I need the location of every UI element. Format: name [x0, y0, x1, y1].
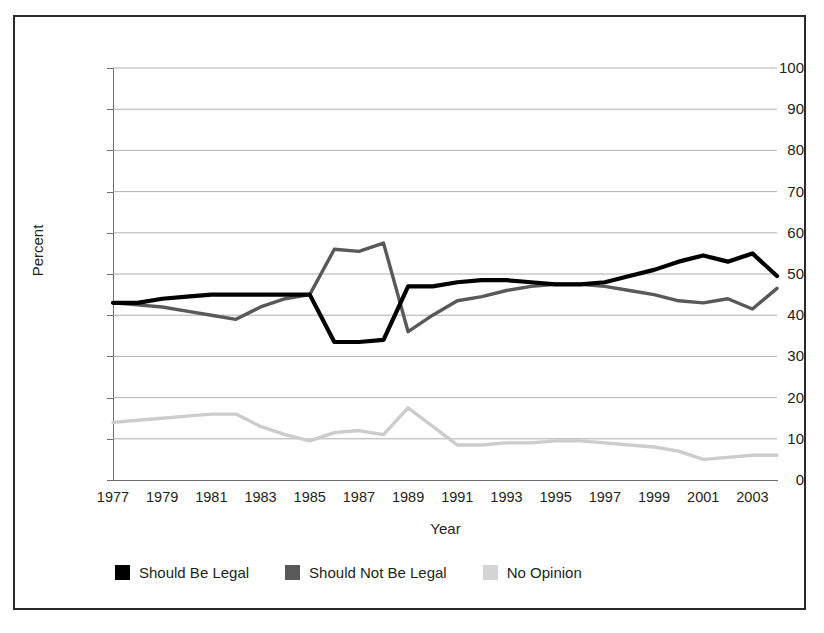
x-tick-label: 1985 [294, 490, 326, 505]
x-tick-label: 1993 [490, 490, 522, 505]
x-tick-label: 1979 [146, 490, 178, 505]
legend-swatch-icon [115, 565, 130, 580]
series-lines [113, 68, 777, 480]
legend-label: No Opinion [507, 565, 582, 580]
series-line [113, 243, 777, 332]
x-tick-label: 1983 [244, 490, 276, 505]
y-tick-mark [107, 480, 114, 481]
series-line [113, 253, 777, 342]
x-tick-label: 2001 [687, 490, 719, 505]
chart-legend: Should Be LegalShould Not Be LegalNo Opi… [115, 565, 582, 580]
x-tick-label: 1997 [589, 490, 621, 505]
x-tick-label: 1989 [392, 490, 424, 505]
x-axis-title: Year [113, 520, 778, 537]
x-tick-label: 1987 [343, 490, 375, 505]
x-tick-label: 2003 [736, 490, 768, 505]
series-line [113, 408, 777, 460]
legend-swatch-icon [483, 565, 498, 580]
x-tick-label: 1995 [540, 490, 572, 505]
legend-item[interactable]: Should Not Be Legal [285, 565, 447, 580]
legend-label: Should Be Legal [139, 565, 249, 580]
chart-figure: Percent 1009080706050403020100 197719791… [13, 15, 806, 610]
x-tick-label: 1977 [97, 490, 129, 505]
x-tick-label: 1999 [638, 490, 670, 505]
legend-item[interactable]: Should Be Legal [115, 565, 249, 580]
y-axis-title: Percent [29, 211, 46, 291]
legend-item[interactable]: No Opinion [483, 565, 582, 580]
legend-label: Should Not Be Legal [309, 565, 447, 580]
legend-swatch-icon [285, 565, 300, 580]
x-axis-line [113, 480, 778, 481]
x-tick-label: 1981 [195, 490, 227, 505]
plot-area [113, 68, 777, 480]
x-tick-label: 1991 [441, 490, 473, 505]
